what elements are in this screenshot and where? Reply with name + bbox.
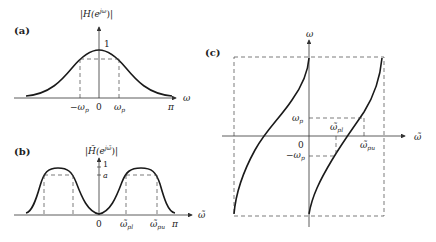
panel-b-tag: (b)	[14, 146, 30, 157]
b-tick-zero: 0	[96, 219, 102, 229]
panel-a: (a) |H(ejω)| 1 ω −ωp 0 ωp π	[14, 7, 191, 114]
a-tick-neg-wp: −ωp	[70, 102, 89, 114]
a-peak-label: 1	[104, 39, 110, 49]
b-tick-pi: π	[171, 219, 179, 229]
panel-c-tag: (c)	[205, 47, 221, 58]
figure: (a) |H(ejω)| 1 ω −ωp 0 ωp π (b)	[0, 0, 436, 242]
b-passband-guides	[44, 175, 157, 215]
b-level-label: a	[103, 171, 108, 180]
c-label-wp: ωp	[292, 113, 303, 125]
panel-c: (c) ω ω̃ ωp 0 −ωp ω̃pl ω̃pu	[205, 29, 422, 227]
c-label-neg-wp: −ωp	[286, 150, 305, 162]
panel-a-tag: (a)	[14, 25, 30, 36]
a-tick-pi: π	[167, 102, 175, 112]
a-y-label: |H(ejω)|	[80, 7, 113, 20]
c-label-wpl: ω̃pl	[330, 122, 343, 134]
a-x-label: ω	[183, 93, 191, 103]
panel-b: (b) |H̃(ejω̃)| 1 a ω̃ 0 ω̃pl ω̃pu π	[14, 144, 206, 231]
b-x-label: ω̃	[198, 210, 206, 220]
c-y-label: ω	[306, 29, 314, 39]
b-tick-wpu: ω̃pu	[150, 219, 165, 231]
c-label-wpu: ω̃pu	[360, 140, 375, 152]
a-tick-wp: ωp	[114, 102, 125, 114]
b-peak-label: 1	[103, 160, 108, 169]
c-x-label: ω̃	[414, 132, 422, 142]
b-y-label: |H̃(ejω̃)|	[85, 144, 118, 157]
c-label-zero: 0	[298, 140, 304, 150]
b-tick-wpl: ω̃pl	[120, 219, 133, 231]
a-passband-guides	[80, 59, 119, 98]
a-tick-zero: 0	[96, 102, 102, 112]
